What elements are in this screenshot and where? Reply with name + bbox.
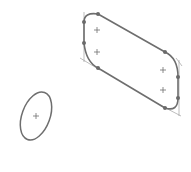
sketch-canvas[interactable]	[0, 0, 191, 172]
node-point[interactable]	[82, 41, 86, 45]
node-point[interactable]	[96, 12, 100, 16]
node-point[interactable]	[96, 66, 100, 70]
node-point[interactable]	[176, 96, 180, 100]
node-point[interactable]	[176, 75, 180, 79]
node-point[interactable]	[82, 20, 86, 24]
node-point[interactable]	[163, 106, 167, 110]
node-point[interactable]	[163, 50, 167, 54]
canvas-background	[0, 0, 191, 172]
